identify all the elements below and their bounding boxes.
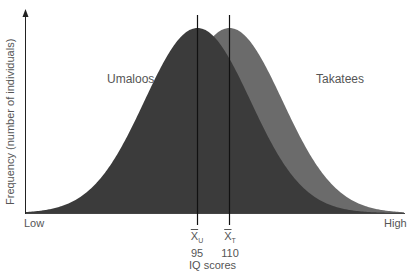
mean-takatees-annotation: XT 110 <box>210 230 250 259</box>
umaloos-label: Umaloos <box>107 72 154 86</box>
takatees-label: Takatees <box>316 72 364 86</box>
y-axis-label: Frequency (number of individuals) <box>4 39 16 205</box>
umaloos-distribution <box>26 28 404 213</box>
mean-t-subscript: T <box>232 237 236 244</box>
mean-u-subscript: U <box>198 237 203 244</box>
x-axis-label: IQ scores <box>189 259 236 271</box>
y-axis-arrow-icon <box>23 9 29 17</box>
high-label: High <box>384 217 407 229</box>
low-label: Low <box>24 217 44 229</box>
mean-t-symbol: X <box>224 230 231 242</box>
mean-t-value: 110 <box>210 247 250 259</box>
